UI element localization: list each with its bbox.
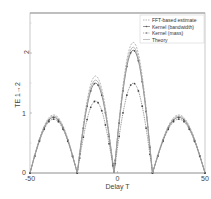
data-marker — [108, 143, 110, 145]
data-marker — [126, 94, 128, 96]
data-marker — [122, 112, 124, 114]
legend-kernel-bandwidth: Kernel (bandwidth) — [152, 24, 194, 30]
legend-kernel-mass: Kernel (mass) — [152, 30, 183, 36]
data-marker — [97, 102, 99, 104]
data-marker — [53, 118, 55, 120]
data-marker — [145, 127, 147, 129]
data-marker — [178, 118, 180, 120]
legend: FFT-based estimate Kernel (bandwidth) Ke… — [140, 15, 204, 43]
data-marker — [130, 84, 132, 86]
legend-fft: FFT-based estimate — [152, 17, 197, 23]
data-marker — [173, 121, 175, 123]
data-marker — [90, 106, 92, 108]
data-marker — [101, 110, 103, 112]
series-kernel-bandwidth- — [30, 50, 205, 173]
data-marker — [105, 124, 107, 126]
data-marker — [86, 119, 88, 121]
data-marker — [134, 83, 136, 85]
y-axis-label: TE 1→2 — [14, 82, 21, 108]
x-tick-50: 50 — [201, 175, 209, 182]
x-tick-0: 0 — [116, 175, 120, 182]
y-tick-2: 2 — [23, 50, 30, 54]
data-marker — [53, 116, 55, 118]
y-tick-1: 1 — [22, 110, 26, 117]
data-marker — [82, 136, 84, 138]
data-marker — [48, 121, 50, 123]
data-marker — [183, 121, 185, 123]
legend-theory: Theory — [152, 37, 168, 43]
x-tick-neg50: -50 — [25, 175, 35, 182]
curves — [29, 42, 206, 174]
x-axis-label: Delay T — [106, 183, 131, 191]
data-marker — [141, 105, 143, 107]
data-marker — [118, 136, 120, 138]
data-marker — [97, 84, 99, 86]
data-marker — [57, 121, 59, 123]
data-marker — [137, 90, 139, 92]
series-kernel-mass- — [30, 83, 205, 173]
data-marker — [94, 101, 96, 103]
data-marker — [178, 116, 180, 118]
te-delay-chart: 0 1 2 -50 0 50 Delay T TE 1→2 FFT-based … — [0, 0, 211, 199]
data-marker — [94, 83, 96, 85]
data-marker — [134, 50, 136, 52]
series-fft-based-estimate — [30, 42, 205, 173]
series-theory — [30, 47, 205, 173]
